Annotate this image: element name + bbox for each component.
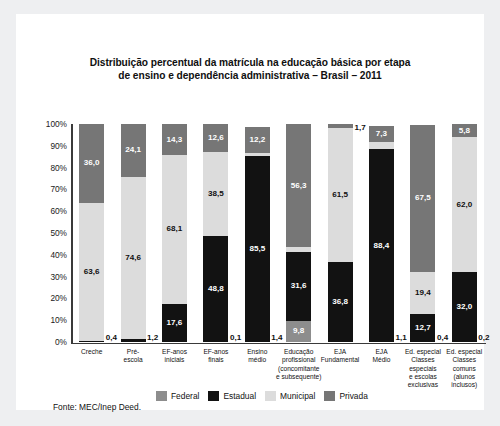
segment-value-label-outside: 0,1 xyxy=(230,333,241,342)
bar-segment-privada[interactable]: 56,3 xyxy=(286,124,311,247)
bar-segment-estadual[interactable]: 48,8 xyxy=(203,236,228,342)
x-axis-label-8: Ed. especialClassesespeciaise escolasexc… xyxy=(399,348,446,389)
segment-value-label-outside: 1,2 xyxy=(147,333,158,342)
bar-column[interactable]: 36,861,5 xyxy=(328,124,353,342)
bar-segment-privada[interactable]: 24,1 xyxy=(121,124,146,177)
chart-title: Distribuição percentual da matrícula na … xyxy=(40,56,460,82)
bar-segment-estadual[interactable] xyxy=(121,339,146,342)
x-axis-label-line: EF-anos xyxy=(151,348,198,356)
segment-value-label: 9,8 xyxy=(293,327,304,335)
legend-item-privada[interactable]: Privada xyxy=(324,391,367,401)
legend-label-estadual: Estadual xyxy=(223,391,256,401)
bar-column[interactable]: 74,624,1 xyxy=(121,124,146,342)
legend-item-estadual[interactable]: Estadual xyxy=(208,391,256,401)
segment-value-label-outside: 1,4 xyxy=(271,333,282,342)
x-axis-label-line: Ensino xyxy=(234,348,281,356)
x-axis-label-line: especiais xyxy=(399,365,446,373)
bar-segment-estadual[interactable] xyxy=(79,341,104,342)
bar-column[interactable]: 88,47,3 xyxy=(369,124,394,342)
x-axis-label-4: Ensinomédio xyxy=(234,348,281,365)
chart-title-line-1: Distribuição percentual da matrícula na … xyxy=(40,56,460,69)
plot-area: 0,463,636,01,274,624,117,668,114,30,148,… xyxy=(71,124,485,342)
bar-segment-municipal[interactable]: 61,5 xyxy=(328,128,353,262)
y-axis-tick-40: 40% xyxy=(50,250,67,260)
bar-column[interactable]: 12,719,467,5 xyxy=(410,124,435,342)
x-axis-label-line: Educação xyxy=(275,348,322,356)
bar-segment-federal[interactable]: 9,8 xyxy=(286,321,311,342)
bar-segment-estadual[interactable]: 17,6 xyxy=(162,304,187,342)
segment-value-label: 85,5 xyxy=(249,245,265,253)
segment-value-label: 74,6 xyxy=(125,254,141,262)
x-axis-label-6: EJAFundamental xyxy=(316,348,363,365)
bar-column[interactable]: 17,668,114,3 xyxy=(162,124,187,342)
legend-item-municipal[interactable]: Municipal xyxy=(265,391,315,401)
x-axis-label-line: inclusos) xyxy=(441,381,488,389)
bar-segment-estadual[interactable]: 85,5 xyxy=(245,156,270,342)
x-axis-label-9: Ed. especialClassescomuns(alunosinclusos… xyxy=(441,348,488,389)
x-axis-label-line: profissional xyxy=(275,356,322,364)
bar-segment-municipal[interactable]: 74,6 xyxy=(121,177,146,340)
bar-segment-estadual[interactable]: 36,8 xyxy=(328,262,353,342)
x-axis-label-line: (alunos xyxy=(441,373,488,381)
bar-segment-privada[interactable]: 12,6 xyxy=(203,124,228,151)
x-axis-label-line: exclusivas xyxy=(399,381,446,389)
legend-label-municipal: Municipal xyxy=(280,391,315,401)
legend-swatch-estadual xyxy=(208,391,219,401)
segment-value-label: 61,5 xyxy=(332,191,348,199)
bar-segment-estadual[interactable]: 12,7 xyxy=(410,314,435,342)
legend-item-federal[interactable]: Federal xyxy=(156,391,199,401)
segment-value-label: 88,4 xyxy=(374,242,390,250)
bar-segment-municipal[interactable]: 62,0 xyxy=(452,137,477,272)
x-axis-label-line: EJA xyxy=(358,348,405,356)
x-axis-label-5: Educaçãoprofissional(concomitantee subse… xyxy=(275,348,322,381)
bar-segment-municipal[interactable]: 63,6 xyxy=(79,203,104,342)
bar-segment-municipal[interactable] xyxy=(369,142,394,149)
bar-column[interactable]: 48,838,512,6 xyxy=(203,124,228,342)
bar-segment-municipal[interactable] xyxy=(286,247,311,252)
segment-value-label: 12,7 xyxy=(415,324,431,332)
bar-column[interactable]: 9,831,656,3 xyxy=(286,124,311,342)
legend-swatch-privada xyxy=(324,391,335,401)
bar-segment-municipal[interactable]: 19,4 xyxy=(410,272,435,314)
bar-segment-municipal[interactable]: 38,5 xyxy=(203,152,228,236)
chart-legend: FederalEstadualMunicipalPrivada xyxy=(156,391,368,401)
source-note: Fonte: MEC/Inep Deed. xyxy=(53,402,141,412)
legend-swatch-municipal xyxy=(265,391,276,401)
legend-label-federal: Federal xyxy=(171,391,199,401)
bar-segment-estadual[interactable]: 31,6 xyxy=(286,252,311,321)
segment-value-label: 17,6 xyxy=(167,319,183,327)
y-axis-tick-20: 20% xyxy=(50,293,67,303)
segment-value-label: 5,8 xyxy=(459,127,470,135)
bar-column[interactable]: 63,636,0 xyxy=(79,124,104,342)
bar-segment-estadual[interactable]: 32,0 xyxy=(452,272,477,342)
x-axis-label-line: finais xyxy=(192,356,239,364)
bar-segment-privada[interactable]: 7,3 xyxy=(369,126,394,142)
segment-value-label: 7,3 xyxy=(376,130,387,138)
bar-segment-municipal[interactable] xyxy=(245,153,270,155)
segment-value-label: 14,3 xyxy=(167,136,183,144)
segment-value-label: 36,0 xyxy=(84,159,100,167)
bar-segment-privada[interactable]: 36,0 xyxy=(79,124,104,202)
bar-segment-privada[interactable]: 12,2 xyxy=(245,127,270,154)
bar-segment-privada[interactable] xyxy=(328,124,353,128)
segment-value-label: 24,1 xyxy=(125,146,141,154)
x-axis-label-0: Creche xyxy=(68,348,115,356)
x-axis-label-line: (concomitante xyxy=(275,365,322,373)
y-axis-tick-100: 100% xyxy=(46,119,67,129)
bar-segment-privada[interactable]: 67,5 xyxy=(410,125,435,272)
segment-value-label-outside: 1,7 xyxy=(355,123,366,132)
bar-column[interactable]: 32,062,05,8 xyxy=(452,124,477,342)
x-axis-label-line: e subsequente) xyxy=(275,373,322,381)
bar-segment-municipal[interactable]: 68,1 xyxy=(162,155,187,303)
bar-column[interactable]: 85,512,2 xyxy=(245,124,270,342)
bar-segment-estadual[interactable]: 88,4 xyxy=(369,149,394,342)
segment-value-label-outside: 1,1 xyxy=(396,333,407,342)
segment-value-label: 36,8 xyxy=(332,298,348,306)
segment-value-label: 56,3 xyxy=(291,182,307,190)
bar-segment-privada[interactable]: 5,8 xyxy=(452,124,477,137)
x-axis-label-line: iniciais xyxy=(151,356,198,364)
y-axis-tick-50: 50% xyxy=(50,228,67,238)
x-axis-label-line: EF-anos xyxy=(192,348,239,356)
bar-segment-privada[interactable]: 14,3 xyxy=(162,124,187,155)
x-axis-label-line: Classes xyxy=(399,356,446,364)
